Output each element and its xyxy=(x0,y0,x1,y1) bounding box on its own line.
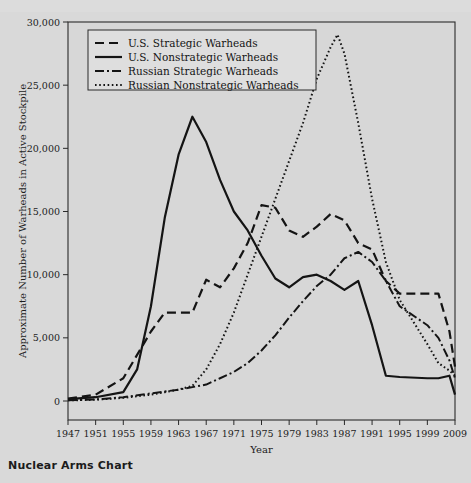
nuclear-arms-line-chart: 05,00010,00015,00020,00025,00030,0001947… xyxy=(0,0,471,470)
y-tick-label: 0 xyxy=(54,396,60,407)
y-tick-label: 10,000 xyxy=(27,269,60,280)
y-tick-label: 25,000 xyxy=(27,80,60,91)
x-tick-label: 1955 xyxy=(111,428,135,439)
x-tick-label: 1975 xyxy=(249,428,273,439)
x-tick-label: 1947 xyxy=(56,428,80,439)
y-axis-title: Approximate Number of Warheads in Active… xyxy=(17,84,28,359)
x-tick-label: 2009 xyxy=(443,428,467,439)
x-tick-label: 1979 xyxy=(277,428,301,439)
y-tick-label: 5,000 xyxy=(33,332,60,343)
chart-caption: Nuclear Arms Chart xyxy=(8,459,133,472)
x-tick-label: 1959 xyxy=(139,428,163,439)
x-tick-label: 1987 xyxy=(332,428,356,439)
y-tick-label: 15,000 xyxy=(27,206,60,217)
x-tick-label: 1971 xyxy=(222,428,246,439)
legend-label-2: Russian Strategic Warheads xyxy=(128,65,278,77)
x-tick-label: 1967 xyxy=(194,428,218,439)
x-tick-label: 1991 xyxy=(360,428,384,439)
chart-legend: U.S. Strategic WarheadsU.S. Nonstrategic… xyxy=(88,30,316,91)
chart-svg: 05,00010,00015,00020,00025,00030,0001947… xyxy=(0,0,471,470)
x-tick-label: 1963 xyxy=(166,428,190,439)
y-tick-label: 30,000 xyxy=(27,17,60,28)
page-root: 05,00010,00015,00020,00025,00030,0001947… xyxy=(0,0,471,483)
legend-label-1: U.S. Nonstrategic Warheads xyxy=(128,51,278,63)
legend-label-3: Russian Nonstrategic Warheads xyxy=(128,79,299,91)
legend-label-0: U.S. Strategic Warheads xyxy=(128,37,258,49)
x-tick-label: 1999 xyxy=(415,428,439,439)
x-tick-label: 1983 xyxy=(305,428,329,439)
y-tick-label: 20,000 xyxy=(27,143,60,154)
x-tick-label: 1951 xyxy=(84,428,108,439)
x-tick-label: 1995 xyxy=(388,428,412,439)
x-axis-title: Year xyxy=(249,444,273,455)
